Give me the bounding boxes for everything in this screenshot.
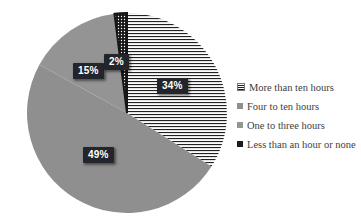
slice-label-one-to-three: 15% [73, 63, 104, 79]
legend-label: One to three hours [247, 120, 325, 131]
legend-label: Less than an hour or none [247, 139, 356, 150]
legend-item-less-than-hour: Less than an hour or none [237, 138, 356, 150]
slice-label-more-than-ten: 34% [157, 78, 188, 94]
legend-item-more-than-ten: More than ten hours [237, 81, 356, 93]
black-swatch-icon [237, 141, 243, 147]
legend-label: More than ten hours [249, 82, 334, 93]
stripes-swatch-icon [237, 83, 245, 91]
legend-label: Four to ten hours [247, 101, 319, 112]
legend-item-one-to-three: One to three hours [237, 119, 356, 131]
slice-label-less-than-hour: 2% [104, 54, 129, 70]
legend-item-four-to-ten: Four to ten hours [237, 100, 356, 112]
pie-chart: 15% 2% 34% 49% More than ten hours Four … [0, 0, 361, 220]
legend: More than ten hours Four to ten hours On… [237, 81, 356, 150]
slice-label-four-to-ten: 49% [83, 147, 114, 163]
gray-swatch-icon [237, 103, 243, 109]
gray-light-swatch-icon [237, 122, 243, 128]
